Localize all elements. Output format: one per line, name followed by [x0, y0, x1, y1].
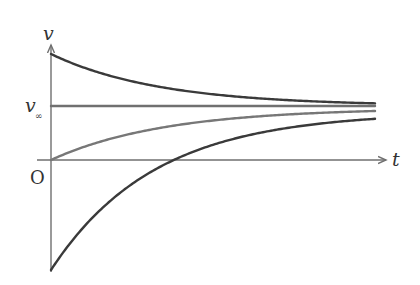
curve-start-at-rest [51, 111, 375, 160]
t-axis-label: t [392, 148, 400, 170]
velocity-time-diagram: v v ∞ O t [0, 0, 420, 285]
v-axis-label: v [43, 22, 54, 44]
terminal-velocity-subscript: ∞ [35, 111, 43, 121]
velocity-curves [51, 54, 375, 270]
origin-label: O [30, 167, 45, 188]
curve-start-above-terminal [51, 54, 375, 103]
